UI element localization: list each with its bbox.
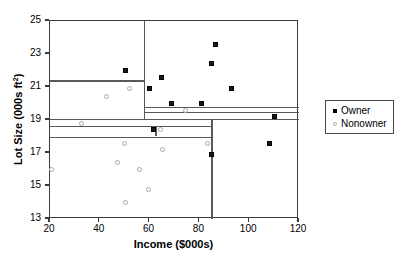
data-point-owner: [123, 68, 128, 73]
x-axis-tick-label: 40: [79, 224, 119, 234]
x-axis-tick-label: 100: [228, 224, 268, 234]
x-axis-tick: [198, 218, 199, 222]
x-axis-tick: [148, 218, 149, 222]
partition-line-horizontal-4: [50, 126, 211, 127]
data-point-nonowner: [183, 108, 188, 113]
y-axis-tick-label: 25: [0, 15, 41, 25]
data-point-nonowner: [122, 141, 127, 146]
y-axis-tick: [45, 118, 49, 119]
chart-figure: Lot Size (000s ft2) Income ($000s) Owner…: [0, 0, 400, 262]
data-point-nonowner: [127, 86, 132, 91]
data-point-nonowner: [115, 160, 120, 165]
y-axis-tick-label: 21: [0, 81, 41, 91]
partition-line-vertical-6: [144, 21, 145, 119]
data-point-nonowner: [205, 141, 210, 146]
y-axis-tick: [45, 85, 49, 86]
plot-area: [49, 20, 298, 218]
data-point-nonowner: [146, 187, 151, 192]
x-axis-tick: [48, 218, 49, 222]
x-axis-tick-label: 80: [178, 224, 218, 234]
y-axis-tick-label: 15: [0, 180, 41, 190]
data-point-owner: [229, 86, 234, 91]
y-axis-tick-label: 17: [0, 147, 41, 157]
partition-line-vertical-7: [211, 119, 212, 219]
partition-line-horizontal-2: [144, 112, 299, 113]
y-axis-tick-label: 23: [0, 48, 41, 58]
x-axis-tick-label: 120: [278, 224, 318, 234]
data-point-owner: [147, 86, 152, 91]
legend-marker-owner-icon: [330, 109, 339, 113]
data-point-nonowner: [104, 94, 109, 99]
partition-line-horizontal-3: [50, 119, 299, 120]
data-point-owner: [209, 61, 214, 66]
legend-label-nonowner: Nonowner: [339, 118, 387, 129]
data-point-owner: [169, 101, 174, 106]
legend-item-owner: Owner: [330, 104, 387, 117]
partition-line-horizontal-1: [144, 107, 299, 108]
partition-line-horizontal-5: [50, 137, 211, 138]
data-point-owner: [151, 127, 156, 132]
data-point-nonowner: [158, 127, 163, 132]
y-axis-tick: [45, 151, 49, 152]
y-axis-tick: [45, 52, 49, 53]
y-axis-tick: [45, 184, 49, 185]
data-point-nonowner: [123, 200, 128, 205]
chart-legend: Owner Nonowner: [325, 100, 394, 134]
y-axis-tick: [45, 19, 49, 20]
x-axis-tick: [248, 218, 249, 222]
data-point-nonowner: [160, 147, 165, 152]
data-point-owner: [213, 42, 218, 47]
data-point-owner: [159, 75, 164, 80]
partition-line-horizontal-0: [50, 80, 144, 81]
data-point-owner: [272, 114, 277, 119]
y-axis-tick-label: 13: [0, 213, 41, 223]
data-point-owner: [199, 101, 204, 106]
legend-item-nonowner: Nonowner: [330, 117, 387, 130]
x-axis-title: Income ($000s): [49, 238, 298, 250]
data-point-owner: [209, 152, 214, 157]
data-point-nonowner: [137, 167, 142, 172]
x-axis-tick: [98, 218, 99, 222]
x-axis-tick-label: 60: [129, 224, 169, 234]
x-axis-tick-label: 20: [29, 224, 69, 234]
data-point-owner: [267, 141, 272, 146]
legend-label-owner: Owner: [339, 105, 370, 116]
legend-marker-nonowner-icon: [330, 122, 339, 126]
x-axis-tick: [297, 218, 298, 222]
data-point-nonowner: [49, 167, 54, 172]
y-axis-tick-label: 19: [0, 114, 41, 124]
